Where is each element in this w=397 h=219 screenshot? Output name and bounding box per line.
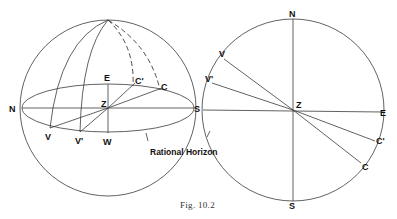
- left-meridian-c-prime: [108, 20, 133, 86]
- left-line-zv: [50, 108, 108, 128]
- horizon-leader-left: [146, 133, 148, 141]
- left-label-c: C: [161, 82, 168, 92]
- right-label-v-prime: V': [205, 74, 213, 84]
- left-label-n: N: [9, 104, 16, 114]
- right-label-c: C: [362, 162, 369, 172]
- rational-horizon-annotation: Rational Horizon: [146, 131, 218, 157]
- right-label-v: V: [219, 49, 225, 59]
- left-label-c-prime: C': [135, 76, 144, 86]
- figure-caption: Fig. 10.2: [180, 200, 215, 210]
- right-label-n: N: [289, 9, 296, 19]
- horizon-leader-right: [207, 131, 210, 137]
- left-line-zc-prime: [108, 83, 135, 108]
- left-meridian-c: [108, 20, 160, 90]
- right-label-s: S: [289, 201, 295, 211]
- right-line-zv-prime: [212, 83, 293, 110]
- left-label-v: V: [45, 132, 51, 142]
- left-label-v-prime: V': [75, 136, 83, 146]
- right-line-zc-prime: [293, 110, 375, 141]
- right-label-z: Z: [296, 100, 302, 110]
- right-circle: N S E Z V V' C' C: [202, 9, 386, 211]
- left-sphere: N S E W Z V V' C' C: [9, 20, 200, 196]
- right-line-zv: [224, 59, 293, 110]
- left-label-w: W: [103, 137, 112, 147]
- left-label-z: Z: [101, 99, 107, 109]
- right-label-e: E: [380, 108, 386, 118]
- rational-horizon-label: Rational Horizon: [150, 147, 218, 157]
- left-meridian-v: [50, 20, 108, 128]
- right-label-c-prime: C': [376, 136, 385, 146]
- left-label-e: E: [104, 73, 110, 83]
- left-line-zv-prime: [80, 108, 108, 132]
- left-label-s: S: [194, 104, 200, 114]
- right-line-zc: [293, 110, 361, 163]
- left-line-zc: [108, 88, 162, 108]
- diagram-canvas: N S E W Z V V' C' C N S E Z V V' C' C Ra…: [0, 0, 397, 219]
